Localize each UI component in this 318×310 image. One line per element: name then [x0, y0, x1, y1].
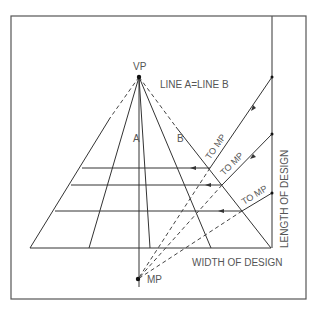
perspective-diagram: VP MP LINE A=LINE B A B TO MP TO MP TO M… [0, 0, 318, 310]
diagram-canvas: VP MP LINE A=LINE B A B TO MP TO MP TO M… [0, 0, 318, 310]
line-a-label: A [133, 133, 140, 144]
length-label: LENGTH OF DESIGN [279, 150, 290, 248]
vanishing-lines [30, 77, 271, 287]
width-label: WIDTH OF DESIGN [192, 257, 283, 268]
horizontal-grid-lines [55, 166, 242, 213]
mp-label: MP [147, 274, 162, 285]
mp-point [136, 277, 140, 281]
to-mp-label-2: TO MP [218, 150, 245, 177]
vp-label: VP [133, 61, 147, 72]
line-ab-label: LINE A=LINE B [160, 79, 229, 90]
line-b-label: B [177, 133, 184, 144]
vp-point [137, 75, 141, 79]
